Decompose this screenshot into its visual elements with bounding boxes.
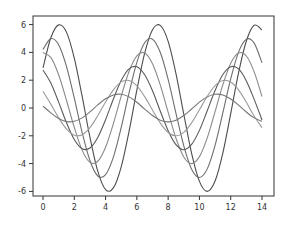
- x-tick-label: 4: [103, 203, 108, 212]
- x-tick-label: 6: [134, 203, 139, 212]
- x-tick-label: 12: [226, 203, 236, 212]
- x-tick-label: 0: [40, 203, 45, 212]
- x-tick-label: 8: [166, 203, 171, 212]
- x-axis: 02468101214: [40, 196, 267, 212]
- x-tick-label: 14: [257, 203, 267, 212]
- y-tick-label: -4: [18, 160, 26, 169]
- y-tick-label: -6: [18, 187, 26, 196]
- y-tick-label: 0: [21, 104, 26, 113]
- y-tick-label: -2: [18, 132, 26, 141]
- x-tick-label: 10: [194, 203, 204, 212]
- x-tick-label: 2: [72, 203, 77, 212]
- plot-area: [33, 16, 274, 196]
- y-tick-label: 2: [21, 76, 26, 85]
- y-axis: -6-4-20246: [18, 21, 33, 197]
- y-tick-label: 4: [21, 48, 26, 57]
- line-chart: 02468101214 -6-4-20246: [0, 0, 291, 227]
- y-tick-label: 6: [21, 21, 26, 30]
